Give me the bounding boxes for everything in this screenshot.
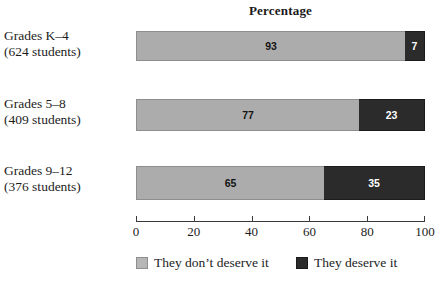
legend-label: They don’t deserve it: [154, 256, 269, 270]
legend-item-dont-deserve: They don’t deserve it: [136, 256, 269, 270]
x-axis-tick: [194, 216, 195, 222]
category-label-grades-5-8: Grades 5–8 (409 students): [4, 96, 128, 127]
category-label-grades-k-4: Grades K–4 (624 students): [4, 28, 128, 59]
x-axis-tick-label: 40: [245, 224, 258, 240]
x-axis-tick-label: 100: [415, 224, 435, 240]
x-axis-tick-label: 0: [133, 224, 140, 240]
x-axis-tick: [424, 216, 425, 222]
category-label-line1: Grades 5–8: [4, 96, 128, 112]
plot-area: 93 7 77 23 65 35 020406080100: [136, 0, 425, 292]
legend-label: They deserve it: [314, 256, 397, 270]
legend-swatch-icon: [136, 257, 148, 269]
legend-item-deserve: They deserve it: [296, 256, 397, 270]
stacked-bar-row: 93 7: [136, 31, 425, 61]
category-label-line2: (624 students): [4, 44, 128, 60]
x-axis-tick-label: 60: [303, 224, 316, 240]
stacked-bar-row: 65 35: [136, 166, 425, 200]
bar-segment-deserve: 23: [359, 99, 425, 131]
legend-swatch-icon: [296, 257, 308, 269]
bar-segment-deserve: 35: [324, 166, 425, 200]
x-axis-tick-label: 20: [187, 224, 200, 240]
x-axis-tick-label: 80: [361, 224, 374, 240]
category-label-line1: Grades K–4: [4, 28, 128, 44]
x-axis-tick: [367, 216, 368, 222]
bar-segment-dont-deserve: 77: [136, 99, 359, 131]
x-axis-tick: [136, 216, 137, 222]
x-axis-line: [136, 221, 425, 222]
category-label-line2: (409 students): [4, 112, 128, 128]
bar-segment-dont-deserve: 65: [136, 166, 324, 200]
bar-segment-dont-deserve: 93: [136, 31, 405, 61]
stacked-bar-row: 77 23: [136, 99, 425, 131]
x-axis-tick: [309, 216, 310, 222]
chart-legend: They don’t deserve it They deserve it: [136, 256, 436, 276]
bar-segment-deserve: 7: [405, 31, 425, 61]
category-label-line1: Grades 9–12: [4, 163, 128, 179]
category-label-line2: (376 students): [4, 179, 128, 195]
category-label-grades-9-12: Grades 9–12 (376 students): [4, 163, 128, 194]
x-axis-tick: [252, 216, 253, 222]
